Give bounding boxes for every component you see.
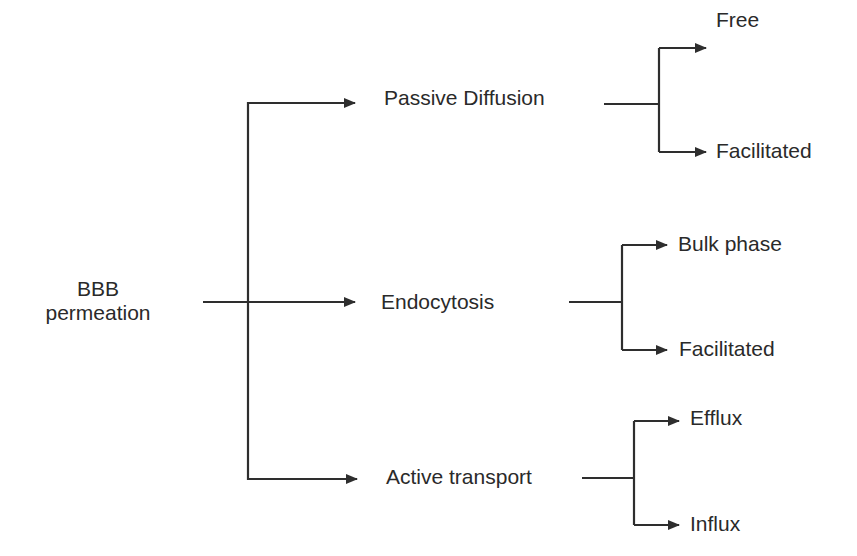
root-node: BBB permeation [8, 277, 188, 325]
node-influx: Influx [690, 512, 740, 536]
node-active-transport: Active transport [386, 465, 532, 489]
root-label-line1: BBB [8, 277, 188, 301]
node-endocytosis: Endocytosis [381, 290, 494, 314]
node-bulk-phase: Bulk phase [678, 232, 782, 256]
diagram-canvas: BBB permeation Passive Diffusion Endocyt… [0, 0, 857, 556]
node-efflux: Efflux [690, 406, 742, 430]
root-label-line2: permeation [8, 301, 188, 325]
node-facilitated-diffusion: Facilitated [716, 139, 812, 163]
node-passive-diffusion: Passive Diffusion [384, 86, 545, 110]
node-free: Free [716, 8, 759, 32]
node-facilitated-endocytosis: Facilitated [679, 337, 775, 361]
